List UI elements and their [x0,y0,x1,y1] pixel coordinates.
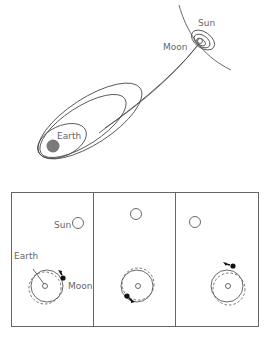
earth-label: Earth [57,131,81,141]
panel-1: Sun Earth Moon [14,218,92,305]
earth-pointer-line [33,269,44,284]
earth-icon [43,284,48,289]
top-diagram: Sun Moon Earth [27,5,231,173]
panel-1-sun-label: Sun [54,220,71,230]
moon-icon [230,263,235,268]
sun-icon [73,218,84,229]
sun-icon [131,209,142,220]
moon-icon [124,293,129,298]
transfer-trajectory-2 [105,46,197,128]
moon-orbit-dashed [213,273,245,305]
sun-label: Sun [198,18,215,28]
moon-icon [198,39,203,44]
transfer-trajectory [99,44,199,133]
panel-3 [190,217,246,306]
earth-icon [47,140,60,153]
sun-icon [190,217,201,228]
sun-orbit-arc [179,5,231,70]
diagram-canvas: Sun Moon Earth Sun Earth Moon [0,0,274,342]
panel-1-moon-label: Moon [68,281,92,291]
earth-icon [226,284,231,289]
panel-2 [121,209,154,304]
moon-icon [60,275,65,280]
panel-1-earth-label: Earth [14,251,38,261]
moon-label: Moon [163,42,187,52]
earth-orbit-ellipse-medium [31,83,136,169]
bottom-diagram: Sun Earth Moon [12,193,259,327]
earth-icon [136,284,141,289]
